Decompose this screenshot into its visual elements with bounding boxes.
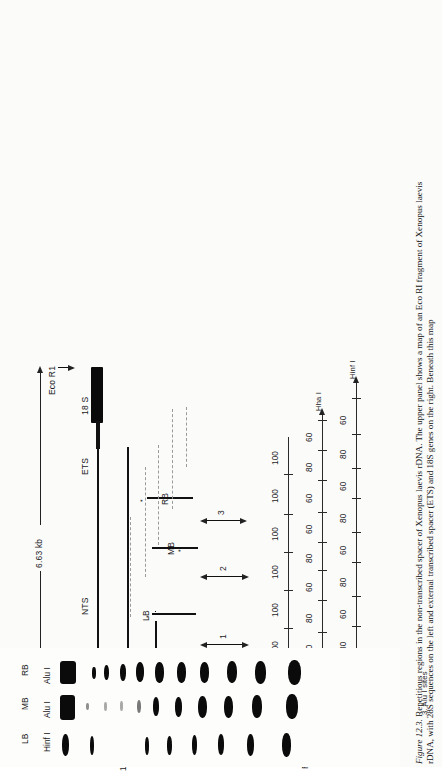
mb-tick-value: 80 [304, 614, 314, 623]
gel-lane-label-rb: RB [20, 664, 30, 676]
lb-tick-value: 100 [270, 489, 280, 503]
gel-band [62, 734, 69, 756]
mb-tick-value: 60 [304, 525, 314, 534]
gel-band [252, 695, 262, 718]
mb-tick-value: 80 [304, 463, 314, 472]
rb-hinfi-arrowhead [353, 376, 359, 383]
gel-band [104, 702, 107, 711]
rb-tick [352, 434, 361, 435]
gel-lane-enzyme-lb: Hinf I [42, 732, 52, 752]
figure-caption-line-2: rDNA, with 28S sequences on the left and… [425, 4, 436, 764]
gel-band [286, 694, 298, 719]
mb-scale-axis [322, 415, 323, 683]
rb-tick-value: 60 [338, 546, 348, 555]
mb-tick [318, 480, 327, 481]
figure-caption: Figure 12.3. Repetitious regions in the … [414, 4, 437, 764]
lb-tick-value: 100 [270, 603, 280, 617]
gel-band [198, 696, 207, 718]
gel-band [92, 667, 96, 679]
rb-tick-value: 60 [338, 610, 348, 619]
gel-band [218, 734, 224, 755]
rb-tick-value: 60 [338, 482, 348, 491]
gel-band [120, 701, 123, 711]
rb-tick [352, 398, 361, 399]
gel-band [224, 696, 233, 718]
mb-tick [318, 570, 327, 571]
gel-band [200, 662, 209, 683]
mb-tick-value: 60 [304, 433, 314, 442]
gel-electrophoresis-panel: LB Hinf I MB Alu I RB Alu I [0, 648, 400, 767]
lb-tick [284, 628, 293, 629]
mb-tick [318, 450, 327, 451]
mb-tick [318, 632, 327, 633]
gel-lane-enzyme-rb: Alu I [42, 667, 52, 684]
rb-tick [352, 532, 361, 533]
rb-tick-value: 80 [338, 578, 348, 587]
lb-tick-value: 100 [270, 527, 280, 541]
lb-tick [284, 474, 293, 475]
lb-tick-value: 100 [270, 451, 280, 465]
lb-tick-value: 100 [270, 565, 280, 579]
gel-band [145, 737, 149, 755]
rb-tick [352, 626, 361, 627]
rb-tick [352, 596, 361, 597]
rb-tick [352, 498, 361, 499]
mb-hhai-arrowhead [319, 408, 325, 415]
rb-tick-value: 80 [338, 514, 348, 523]
mb-tick-value: 80 [304, 554, 314, 563]
lb-tick [284, 514, 293, 515]
gel-band [153, 697, 159, 716]
gel-band [155, 662, 164, 683]
gel-band [86, 703, 89, 710]
gel-band [137, 700, 141, 713]
figure-caption-text-1: Repetitious regions in the non-transcrib… [414, 182, 424, 717]
lb-tick [284, 552, 293, 553]
mb-tick [318, 512, 327, 513]
gel-band [282, 733, 291, 757]
figure-caption-line-1: Figure 12.3. Repetitious regions in the … [414, 4, 425, 764]
gel-band [177, 662, 186, 683]
mb-tick [318, 420, 327, 421]
gel-band [90, 736, 94, 755]
rb-scale-axis [356, 383, 357, 683]
gel-band [247, 734, 254, 756]
gel-band [60, 695, 75, 720]
gel-band [288, 660, 301, 685]
gel-band [227, 661, 237, 683]
mb-tick [318, 542, 327, 543]
lb-tick [284, 590, 293, 591]
rb-tick [352, 468, 361, 469]
gel-lane-label-lb: LB [20, 734, 30, 744]
gel-band [167, 736, 172, 755]
rb-tick [352, 562, 361, 563]
rb-tick-value: 80 [338, 450, 348, 459]
gel-lane-label-mb: MB [20, 697, 30, 710]
gel-band [60, 661, 76, 684]
gel-band [104, 665, 109, 680]
gel-band [192, 735, 197, 755]
gel-band [175, 697, 182, 717]
mb-tick [318, 600, 327, 601]
mb-tick-value: 60 [304, 583, 314, 592]
gel-band [255, 661, 266, 684]
rb-tick-value: 60 [338, 416, 348, 425]
gel-lane-enzyme-mb: Alu I [42, 701, 52, 718]
gel-band [120, 664, 126, 681]
figure-number: Figure 12.3. [414, 719, 424, 764]
gel-band [136, 662, 144, 682]
mb-tick-value: 60 [304, 494, 314, 503]
